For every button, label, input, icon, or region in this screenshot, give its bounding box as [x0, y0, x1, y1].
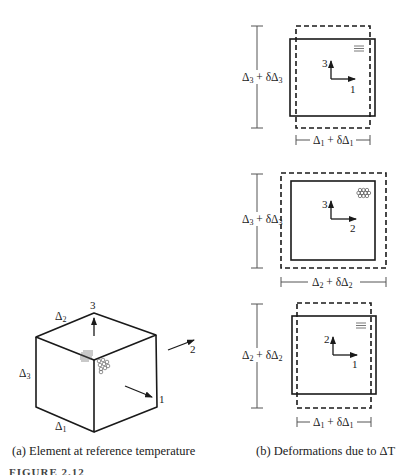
- cube-axis-arrows: [94, 318, 194, 397]
- vertical-dimension-label: Δ3 + δΔ3: [242, 71, 282, 85]
- view-1-2-plane: Δ2 + δΔ2 2 1 Δ1 + δΔ1: [240, 303, 376, 430]
- vertical-dimension-label: Δ3 + δΔ3: [242, 213, 282, 227]
- horizontal-dimension-label: Δ1 + δΔ1: [313, 416, 353, 430]
- axes-icon: [331, 201, 356, 219]
- figure-number: FIGURE 2.12: [9, 467, 85, 475]
- fiber-lines-icon: [356, 323, 366, 328]
- original-outline: [290, 39, 375, 116]
- horizontal-dimension-label: Δ2 + δΔ2: [312, 276, 352, 290]
- view-1-3-plane: Δ3 + δΔ3 3 1 Δ1 + δΔ1: [240, 26, 375, 148]
- cube-edge-label-delta3: Δ3: [19, 367, 30, 381]
- axis-up-label: 3: [322, 57, 328, 69]
- caption-panel-b: (b) Deformations due to ΔT: [256, 444, 395, 459]
- horizontal-dimension-label: Δ1 + δΔ1: [313, 134, 353, 148]
- cube-axis-3-label: 3: [90, 299, 96, 311]
- cube-edge-label-delta2: Δ2: [55, 310, 66, 324]
- vertical-dimension-label: Δ2 + δΔ2: [242, 349, 282, 363]
- caption-panel-a: (a) Element at reference temperature: [12, 444, 195, 459]
- axis-right-label: 1: [350, 83, 356, 95]
- axes-icon: [331, 61, 355, 79]
- deformed-outline: [281, 173, 386, 268]
- axes-icon: [333, 337, 357, 355]
- reference-cube: [36, 313, 157, 432]
- deformed-outline: [296, 26, 370, 128]
- axis-right-label: 1: [352, 358, 358, 370]
- axis-up-label: 2: [324, 333, 330, 345]
- fiber-ends-icon: [357, 188, 371, 197]
- original-outline: [291, 181, 375, 260]
- fiber-lines-icon: [354, 46, 364, 51]
- cube-fiber-ends-icon: [97, 358, 110, 374]
- axis-up-label: 3: [322, 198, 328, 210]
- view-2-3-plane: Δ3 + δΔ3 3 2 Δ2 + δΔ2: [240, 173, 386, 290]
- cube-axis-1-label: 1: [159, 393, 165, 405]
- axis-right-label: 2: [350, 222, 356, 234]
- figure-canvas: Δ3 + δΔ3 3 1 Δ1 + δΔ1: [0, 0, 406, 475]
- cube-edge-label-delta1: Δ1: [55, 420, 66, 434]
- cube-axis-2-label: 2: [190, 343, 196, 355]
